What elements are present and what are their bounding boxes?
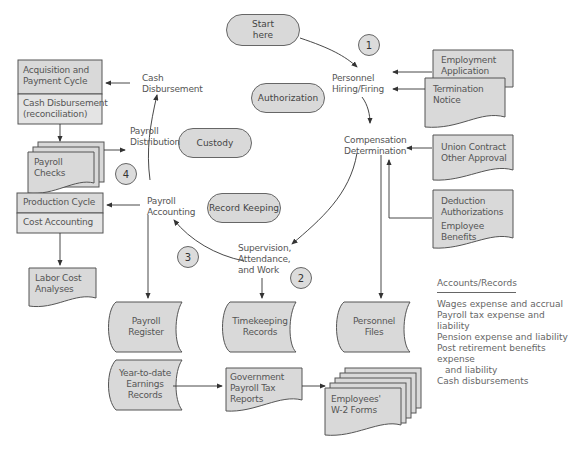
union-contract-text: Union ContractOther Approval [441, 142, 507, 164]
start-line2: here [253, 30, 273, 41]
step-cash-disbursement: CashDisbursement [142, 73, 203, 95]
step-compensation-determination: CompensationDetermination [344, 135, 407, 157]
step-supervision: Supervision,Attendance,and Work [238, 243, 291, 276]
cash-reconciliation-text: Cash Disbursement(reconciliation) [23, 98, 108, 120]
step-number-3: 3 [177, 246, 199, 268]
start-terminal: Start here [226, 14, 300, 46]
legend-item: Payroll tax expense and liability [437, 310, 577, 332]
payroll-register-text: PayrollRegister [116, 316, 176, 338]
legend-item: Cash disbursements [437, 376, 577, 387]
legend-item: Post retirement benefits expense [437, 343, 577, 365]
production-cycle-text: Production Cycle [23, 197, 95, 208]
labor-cost-text: Labor CostAnalyses [35, 273, 81, 295]
record-keeping-pill: Record Keeping [207, 193, 281, 223]
ytd-earnings-text: Year-to-dateEarningsRecords [112, 368, 178, 401]
cropped-caption [0, 0, 577, 2]
custody-label: Custody [197, 138, 234, 149]
payroll-checks-text: PayrollChecks [34, 157, 65, 179]
termination-notice-text: TerminationNotice [433, 84, 484, 106]
employment-application-text: EmploymentApplication [441, 55, 496, 77]
accounts-records-legend: Accounts/Records Wages expense and accru… [437, 278, 577, 387]
start-line1: Start [252, 19, 274, 30]
legend-item: and liability [437, 365, 577, 376]
cost-accounting-text: Cost Accounting [23, 217, 93, 228]
gov-tax-reports-text: GovernmentPayroll TaxReports [230, 372, 284, 405]
step-payroll-distribution: PayrollDistribution [130, 126, 180, 148]
step-number-4: 4 [115, 163, 137, 185]
custody-pill: Custody [178, 128, 252, 158]
legend-title: Accounts/Records [437, 278, 516, 293]
record-keeping-label: Record Keeping [209, 203, 279, 214]
legend-item: Wages expense and accrual [437, 299, 577, 310]
personnel-files-text: PersonnelFiles [344, 316, 404, 338]
w2-forms-text: Employees'W-2 Forms [331, 394, 381, 416]
legend-item: Pension expense and liability [437, 332, 577, 343]
authorization-pill: Authorization [251, 83, 325, 113]
step-personnel-hiring: PersonnelHiring/Firing [332, 73, 384, 95]
authorization-label: Authorization [258, 93, 318, 104]
step-number-1: 1 [358, 34, 380, 56]
deduction-auth-text: DeductionAuthorizations EmployeeBenefits [441, 196, 503, 243]
step-number-2: 2 [290, 267, 312, 289]
timekeeping-text: TimekeepingRecords [226, 316, 294, 338]
acquisition-cycle-text: Acquisition andPayment Cycle [23, 65, 89, 87]
step-payroll-accounting: PayrollAccounting [147, 196, 195, 218]
